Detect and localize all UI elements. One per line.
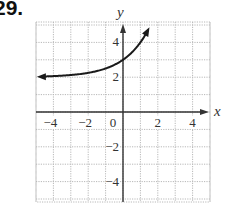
y-axis-label: y	[115, 4, 124, 20]
x-tick-label: −2	[78, 115, 92, 130]
graph: xy −4−2024−4−224	[0, 0, 232, 222]
x-axis-label: x	[213, 103, 221, 119]
y-tick-label: −2	[105, 139, 119, 154]
y-tick-label: 4	[113, 34, 120, 49]
y-tick-label: −4	[105, 174, 119, 189]
curve-left-arrow-icon	[37, 73, 46, 80]
x-tick-label: 4	[189, 115, 196, 130]
x-axis-arrow-icon	[200, 109, 209, 115]
y-tick-label: 2	[113, 69, 120, 84]
axes: xy	[36, 4, 221, 202]
x-tick-label: 0	[110, 115, 117, 130]
curve-right-arrow-icon	[142, 27, 149, 37]
x-tick-label: −4	[43, 115, 57, 130]
curve-path	[41, 30, 148, 77]
x-tick-label: 2	[155, 115, 162, 130]
